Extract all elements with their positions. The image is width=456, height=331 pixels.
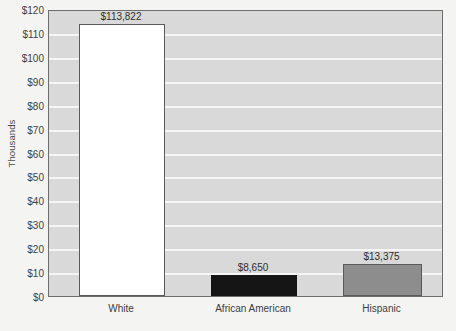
x-label-white: White	[108, 303, 134, 314]
y-tick-label: $30	[0, 220, 44, 231]
y-tick-label: $0	[0, 292, 44, 303]
y-tick-label: $90	[0, 76, 44, 87]
x-label-hispanic: Hispanic	[362, 303, 400, 314]
y-tick-label: $10	[0, 268, 44, 279]
y-tick-label: $80	[0, 100, 44, 111]
bar-hispanic	[343, 264, 422, 296]
y-tick-label: $100	[0, 52, 44, 63]
y-tick-label: $60	[0, 148, 44, 159]
bar-white	[79, 24, 165, 296]
value-label-african-american: $8,650	[238, 262, 269, 273]
y-axis-tick-labels: $0$10$20$30$40$50$60$70$80$90$100$110$12…	[0, 10, 44, 297]
y-tick-label: $120	[0, 5, 44, 16]
clipped-caption-fragment	[6, 323, 246, 331]
y-tick-label: $50	[0, 172, 44, 183]
value-label-white: $113,822	[101, 11, 142, 22]
value-label-hispanic: $13,375	[363, 251, 399, 262]
y-tick-label: $40	[0, 196, 44, 207]
y-tick-label: $20	[0, 244, 44, 255]
bar-african-american	[211, 275, 297, 296]
x-label-african-american: African American	[215, 303, 291, 314]
y-tick-label: $70	[0, 124, 44, 135]
bar-chart-figure: Thousands $0$10$20$30$40$50$60$70$80$90$…	[0, 0, 456, 331]
y-tick-label: $110	[0, 28, 44, 39]
